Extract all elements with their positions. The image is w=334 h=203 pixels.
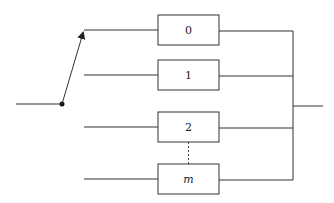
block-2: 2 (158, 112, 219, 142)
diagram-canvas: 0 1 2 m (0, 0, 334, 203)
block-0: 0 (158, 15, 219, 45)
block-0-label: 0 (185, 24, 192, 37)
switch-arm (62, 33, 83, 104)
block-m: m (158, 164, 219, 194)
block-1-label: 1 (185, 69, 192, 82)
block-m-label: m (183, 173, 193, 186)
block-2-label: 2 (185, 121, 192, 134)
block-1: 1 (158, 60, 219, 90)
